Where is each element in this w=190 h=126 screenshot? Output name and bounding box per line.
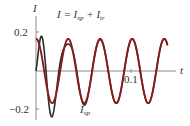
x-tick-label: 0.1	[124, 74, 138, 85]
steady-periodic-annotation: Isp	[80, 104, 90, 117]
series-total-line	[36, 36, 168, 117]
total-current-annotation: I = Isp + Itr	[57, 9, 105, 22]
y-tick-label-pos: 0.2	[14, 27, 28, 38]
total-label-plus: + I	[83, 8, 100, 20]
y-tick-label-neg: −0.2	[9, 104, 29, 115]
y-axis-label: I	[33, 3, 37, 14]
total-label-main: I = I	[57, 8, 77, 20]
sp-label-sub: sp	[84, 109, 90, 117]
total-label-sub-tr: tr	[100, 14, 105, 22]
x-axis-label: t	[180, 65, 183, 76]
